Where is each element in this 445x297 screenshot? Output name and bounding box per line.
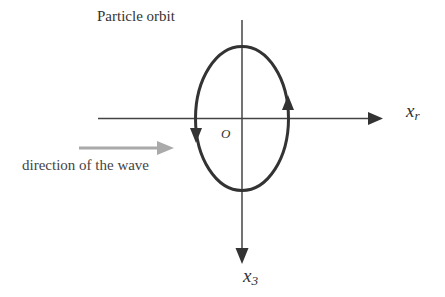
axis-subscript: r (414, 108, 419, 123)
horizontal-axis-arrowhead (368, 112, 383, 125)
diagram-graphics (0, 0, 445, 297)
vertical-axis-label: x3 (243, 265, 258, 289)
particle-orbit-diagram: Particle orbit xr x3 O direction of the … (0, 0, 445, 297)
wave-direction-arrowhead (157, 141, 174, 155)
vertical-axis-arrowhead (236, 248, 249, 264)
orbit-arrow-down-icon (190, 128, 202, 143)
wave-direction-label: direction of the wave (22, 157, 149, 174)
axis-subscript: 3 (251, 273, 258, 288)
orbit-arrow-up-icon (282, 95, 294, 110)
diagram-title: Particle orbit (97, 8, 175, 25)
horizontal-axis-label: xr (406, 100, 420, 124)
origin-label: O (221, 126, 230, 142)
